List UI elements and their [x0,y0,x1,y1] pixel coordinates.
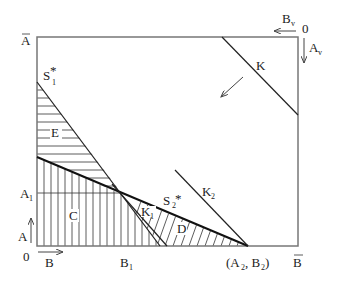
svg-text:1: 1 [29,194,33,203]
svg-text:E: E [51,125,59,140]
label-origin-bottom: 0 [23,249,30,264]
label-axis-b: B [45,255,54,270]
label-axis-av: A v [309,40,322,57]
svg-text:*: * [50,63,57,78]
svg-text:1: 1 [52,78,56,87]
svg-text:B: B [120,255,129,270]
svg-text:C: C [69,208,78,223]
svg-text:D: D [177,221,186,236]
label-k: K [256,58,266,73]
svg-text:1: 1 [129,263,133,272]
k-line [222,37,298,115]
label-origin-top: 0 [302,21,309,36]
label-b-bar: B [293,255,303,270]
direction-arrow-icon [221,77,243,97]
svg-text:S: S [163,193,170,208]
svg-text:): ) [265,255,269,270]
svg-text:v: v [291,19,295,28]
svg-text:A: A [21,33,31,48]
s2-star-line [37,157,248,246]
svg-text:B: B [293,255,302,270]
svg-text:*: * [175,191,182,206]
label-a1: A 1 [20,186,33,203]
label-k1: K 1 [141,204,156,221]
edgeworth-box-diagram: A B 0 0 A B B v A v A 1 B 1 (A 2 , B 2 )… [0,0,342,283]
svg-text:v: v [318,48,322,57]
svg-text:, B: , B [245,255,261,270]
label-a-bar: A [21,33,31,48]
svg-text:1: 1 [150,212,154,221]
k1-line [112,184,167,246]
label-region-d: D [176,221,187,236]
svg-text:2: 2 [211,192,215,201]
region-c-hatching [44,150,156,246]
svg-text:B: B [282,11,291,26]
label-k2: K 2 [202,184,215,201]
label-a2-b2: (A 2 , B 2 ) [226,255,269,272]
svg-text:(A: (A [226,255,240,270]
label-b1: B 1 [120,255,133,272]
label-axis-a: A [18,229,28,244]
label-s1-star: S 1 * [43,63,57,87]
label-axis-bv: B v [282,11,295,28]
label-s2-star: S 2 * [163,191,182,210]
label-region-e: E [50,125,62,140]
label-region-c: C [68,208,79,223]
